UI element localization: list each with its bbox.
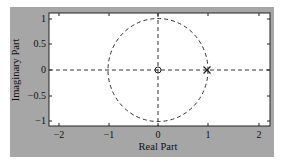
y-axis-label: Imaginary Part: [10, 39, 21, 102]
x-tick-label: 1: [206, 129, 211, 140]
y-tick-label: 0: [41, 64, 46, 75]
x-tick-label: 0: [156, 129, 161, 140]
x-tick-label: −1: [104, 129, 115, 140]
y-tick-label: 1: [41, 13, 46, 24]
x-tick-label: −2: [54, 129, 65, 140]
y-tick-label: −0.5: [28, 90, 46, 101]
x-tick-label: 2: [257, 129, 262, 140]
y-tick-label: −1: [35, 115, 46, 126]
x-axis-label: Real Part: [139, 141, 178, 152]
y-tick-label: 0.5: [34, 38, 47, 49]
pole-zero-plot: −2 −1 0 1 2 1 0.5 0 −0.5 −1 Real Part Im…: [0, 0, 284, 164]
plot-area: [49, 13, 270, 126]
